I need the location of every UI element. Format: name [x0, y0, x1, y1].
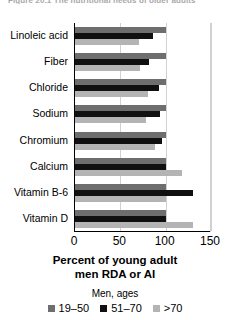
bar-group: [75, 75, 210, 101]
bar-group: [75, 128, 210, 154]
bar: [75, 170, 182, 176]
legend-item[interactable]: 51–70: [100, 302, 142, 314]
bar-group: [75, 206, 210, 232]
legend-title: Men, ages: [0, 288, 230, 299]
y-axis-label: Fiber: [44, 56, 68, 67]
y-axis-label: Calcium: [30, 161, 68, 172]
legend-swatch-icon: [153, 305, 160, 312]
x-axis-tick-100: 100: [155, 234, 175, 248]
bar-group: [75, 154, 210, 180]
legend-swatch-icon: [100, 305, 107, 312]
bar: [75, 117, 146, 123]
bar-group: [75, 23, 210, 49]
bar: [75, 39, 139, 45]
x-axis-title-line1: Percent of young adult: [20, 254, 210, 268]
x-axis-title-line2: men RDA or AI: [20, 268, 210, 282]
legend-item[interactable]: >70: [153, 302, 183, 314]
plot-area: [74, 23, 210, 232]
bar-group: [75, 180, 210, 206]
x-axis-tick-0: 0: [71, 234, 78, 248]
legend-label: 51–70: [111, 302, 142, 314]
y-axis-label: Vitamin B-6: [14, 187, 68, 198]
figure-chart: Figure 20.1 The nutritional needs of old…: [0, 0, 230, 320]
legend-items: 19–5051–70>70: [0, 302, 230, 314]
legend: Men, ages 19–5051–70>70: [0, 288, 230, 314]
gridline-150: [211, 23, 212, 231]
bar: [75, 91, 148, 97]
bar-group: [75, 101, 210, 127]
bar-group: [75, 49, 210, 75]
legend-item[interactable]: 19–50: [48, 302, 90, 314]
x-axis-tick-labels: 050100150: [0, 234, 230, 250]
bar: [75, 196, 166, 202]
bar: [75, 222, 193, 228]
bar: [75, 144, 155, 150]
x-axis-title: Percent of young adult men RDA or AI: [20, 254, 210, 282]
bar: [75, 65, 140, 71]
cropped-caption-fragment: Figure 20.1 The nutritional needs of old…: [8, 0, 222, 4]
y-axis-label: Vitamin D: [23, 213, 68, 224]
x-axis-tick-150: 150: [200, 234, 220, 248]
y-axis-category-labels: Linoleic acidFiberChlorideSodiumChromium…: [0, 23, 71, 232]
y-axis-label: Linoleic acid: [10, 30, 68, 41]
x-axis-tick-50: 50: [113, 234, 126, 248]
y-axis-label: Chloride: [29, 82, 68, 93]
legend-label: >70: [164, 302, 183, 314]
y-axis-label: Chromium: [20, 135, 68, 146]
legend-label: 19–50: [59, 302, 90, 314]
y-axis-label: Sodium: [32, 108, 68, 119]
legend-swatch-icon: [48, 305, 55, 312]
